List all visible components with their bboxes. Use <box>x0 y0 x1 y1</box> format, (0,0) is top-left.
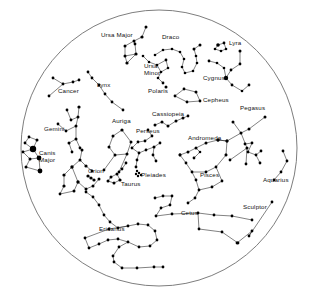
star-dot[interactable] <box>121 267 124 270</box>
star-dot[interactable] <box>198 228 201 231</box>
star-dot[interactable] <box>109 221 112 224</box>
star-dot[interactable] <box>134 43 137 46</box>
star-dot[interactable] <box>108 146 111 149</box>
star-dot[interactable] <box>110 176 113 179</box>
star-dot[interactable] <box>29 158 32 161</box>
star-dot[interactable] <box>251 142 254 145</box>
star-dot[interactable] <box>259 162 262 165</box>
star-dot[interactable] <box>186 101 189 104</box>
star-dot[interactable] <box>260 150 263 153</box>
star-dot[interactable] <box>144 140 147 143</box>
star-dot[interactable] <box>226 140 229 143</box>
star-dot[interactable] <box>62 173 65 176</box>
star-dot[interactable] <box>98 178 101 181</box>
star-dot[interactable] <box>111 101 114 104</box>
star-dot[interactable] <box>70 119 73 122</box>
star-dot[interactable] <box>88 247 91 250</box>
star-dot[interactable] <box>199 151 202 154</box>
star-dot[interactable] <box>221 231 224 234</box>
star-dot[interactable] <box>77 105 80 108</box>
star-dot[interactable] <box>179 51 182 54</box>
star-dot[interactable] <box>248 128 251 131</box>
star-dot[interactable] <box>230 69 233 72</box>
star-dot[interactable] <box>239 63 242 66</box>
star-dot[interactable] <box>137 141 140 144</box>
star-dot[interactable] <box>215 166 218 169</box>
star-dot[interactable] <box>205 142 208 145</box>
star-dot[interactable] <box>134 52 137 55</box>
star-dot[interactable] <box>81 149 84 152</box>
star-dot[interactable] <box>62 184 65 187</box>
star-dot[interactable] <box>255 154 258 157</box>
star-dot[interactable] <box>135 173 137 175</box>
star-dot[interactable] <box>245 163 248 166</box>
star-dot[interactable] <box>199 44 202 47</box>
star-dot[interactable] <box>121 168 124 171</box>
star-dot[interactable] <box>66 109 69 112</box>
star-dot[interactable] <box>244 143 247 146</box>
star-dot[interactable] <box>175 120 178 123</box>
star-dot[interactable] <box>138 152 141 155</box>
star-dot[interactable] <box>131 147 134 150</box>
star-dot[interactable] <box>248 235 251 238</box>
star-dot[interactable] <box>223 42 226 45</box>
star-dot[interactable] <box>107 180 110 183</box>
star-dot[interactable] <box>117 238 120 241</box>
star-dot[interactable] <box>187 115 190 118</box>
star-dot[interactable] <box>113 182 116 185</box>
star-dot[interactable] <box>75 125 78 128</box>
star-dot[interactable] <box>240 132 243 135</box>
star-dot[interactable] <box>280 171 283 174</box>
star-dot[interactable] <box>251 230 254 233</box>
star-dot[interactable] <box>79 159 82 162</box>
star-dot[interactable] <box>137 223 140 226</box>
star-dot[interactable] <box>174 95 177 98</box>
star-dot[interactable] <box>28 136 31 139</box>
star-dot[interactable] <box>103 214 106 217</box>
star-dot[interactable] <box>126 153 129 156</box>
star-dot[interactable] <box>208 60 211 63</box>
star-dot[interactable] <box>196 62 199 65</box>
star-dot[interactable] <box>135 166 138 169</box>
star-dot[interactable] <box>25 166 28 169</box>
star-dot[interactable] <box>147 224 150 227</box>
star-dot[interactable] <box>68 142 71 145</box>
star-dot[interactable] <box>167 125 170 128</box>
star-dot[interactable] <box>231 215 234 218</box>
star-dot[interactable] <box>70 165 73 168</box>
star-dot[interactable] <box>85 188 88 191</box>
star-dot[interactable] <box>48 95 51 98</box>
star-dot[interactable] <box>22 151 25 154</box>
star-dot[interactable] <box>187 202 190 205</box>
star-dot[interactable] <box>171 195 174 198</box>
star-dot[interactable] <box>62 83 65 86</box>
star-dot[interactable] <box>65 130 68 133</box>
star-dot[interactable] <box>38 169 43 174</box>
star-dot[interactable] <box>153 266 156 269</box>
star-dot[interactable] <box>92 178 95 181</box>
star-dot[interactable] <box>232 121 235 124</box>
star-dot[interactable] <box>98 204 101 207</box>
star-dot[interactable] <box>162 195 165 198</box>
star-dot[interactable] <box>225 48 228 51</box>
star-dot[interactable] <box>52 77 55 80</box>
star-dot[interactable] <box>241 90 244 93</box>
star-dot[interactable] <box>127 225 130 228</box>
star-dot[interactable] <box>125 61 128 64</box>
star-dot[interactable] <box>152 154 155 157</box>
star-dot[interactable] <box>211 186 214 189</box>
star-dot[interactable] <box>140 35 143 38</box>
star-dot[interactable] <box>214 48 217 51</box>
star-dot[interactable] <box>86 174 89 177</box>
star-dot[interactable] <box>171 48 174 51</box>
star-dot[interactable] <box>78 79 81 82</box>
star-dot[interactable] <box>193 48 196 51</box>
star-dot[interactable] <box>145 26 148 29</box>
star-dot[interactable] <box>231 84 234 87</box>
star-dot[interactable] <box>167 67 170 70</box>
star-dot[interactable] <box>195 179 198 182</box>
star-dot[interactable] <box>107 239 110 242</box>
star-dot[interactable] <box>112 255 115 258</box>
star-dot[interactable] <box>195 147 198 150</box>
star-dot[interactable] <box>225 154 228 157</box>
